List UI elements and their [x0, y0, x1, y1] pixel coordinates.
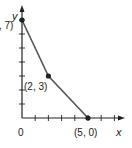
- data-point: [19, 17, 24, 22]
- data-point: [46, 73, 51, 78]
- series-line: [22, 20, 88, 118]
- axis-ticks: [19, 20, 114, 121]
- data-points: [19, 17, 90, 120]
- labels: y x 0 (0, 7)(2, 3)(5, 0): [0, 10, 122, 138]
- point-label: (5, 0): [74, 127, 97, 138]
- point-label: (2, 3): [24, 81, 47, 92]
- x-axis-label: x: [115, 126, 122, 138]
- chart-canvas: y x 0 (0, 7)(2, 3)(5, 0): [0, 0, 132, 148]
- origin-label: 0: [18, 127, 24, 138]
- point-label: (0, 7): [0, 20, 13, 31]
- line-chart: y x 0 (0, 7)(2, 3)(5, 0): [0, 0, 132, 148]
- x-axis-arrow-icon: [118, 116, 125, 121]
- axes: [20, 5, 126, 121]
- data-line: [22, 20, 88, 118]
- data-point: [85, 115, 90, 120]
- y-axis-arrow-icon: [20, 5, 25, 12]
